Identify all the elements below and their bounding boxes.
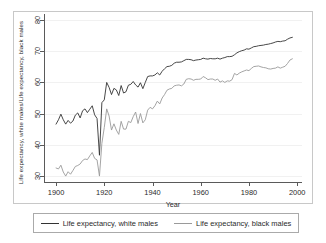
x-tick-label: 2000 <box>289 188 305 197</box>
y-tick-mark <box>40 82 44 83</box>
series-lines <box>44 14 302 182</box>
x-axis-line <box>44 182 302 183</box>
chart-legend: Life expectancy, white malesLife expecta… <box>33 213 299 233</box>
x-tick-mark <box>56 182 57 186</box>
figure-canvas: Life expectancy, white males/Life expect… <box>0 0 326 243</box>
x-axis-label: Year <box>44 200 302 209</box>
y-tick-mark <box>40 145 44 146</box>
x-tick-mark <box>153 182 154 186</box>
x-tick-label: 1980 <box>241 188 257 197</box>
plot-axes: Year 190019201940196019802000 <box>44 14 302 182</box>
x-tick-mark <box>104 182 105 186</box>
y-tick-mark <box>40 114 44 115</box>
x-tick-label: 1900 <box>48 188 64 197</box>
y-tick-mark <box>40 20 44 21</box>
y-tick-mark <box>40 176 44 177</box>
y-axis-label-container: Life expectancy, white males/Life expect… <box>14 11 28 193</box>
y-tick-label-column: 304050607080 <box>27 11 42 193</box>
x-tick-label: 1920 <box>96 188 112 197</box>
series-line <box>56 59 292 176</box>
legend-line-swatch <box>41 223 59 224</box>
x-tick-label: 1940 <box>144 188 160 197</box>
x-tick-mark <box>249 182 250 186</box>
y-tick-mark <box>40 51 44 52</box>
y-axis-label: Life expectancy, white males/Life expect… <box>18 20 25 184</box>
x-tick-mark <box>201 182 202 186</box>
legend-label: Life expectancy, black males <box>196 219 291 228</box>
series-line <box>56 37 292 155</box>
legend-item[interactable]: Life expectancy, black males <box>174 219 291 228</box>
legend-label: Life expectancy, white males <box>63 219 158 228</box>
x-tick-label: 1960 <box>192 188 208 197</box>
legend-item[interactable]: Life expectancy, white males <box>41 219 158 228</box>
x-tick-mark <box>297 182 298 186</box>
legend-line-swatch <box>174 223 192 224</box>
